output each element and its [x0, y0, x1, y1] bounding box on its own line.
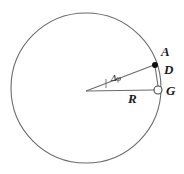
segment-d-line: [155, 66, 158, 86]
diagram-canvas: [0, 0, 184, 174]
radius-line-to-g: [86, 90, 154, 91]
main-circle: [11, 13, 161, 163]
point-g-marker: [154, 86, 162, 94]
label-angle-delta-phi: Δφ: [111, 74, 121, 83]
label-radius: R: [128, 92, 137, 105]
label-segment-d: D: [164, 63, 173, 76]
point-a-marker: [152, 62, 158, 68]
label-point-a: A: [161, 45, 170, 58]
geometry-diagram: A D G R Δφ: [0, 0, 184, 174]
label-point-g: G: [166, 84, 175, 97]
